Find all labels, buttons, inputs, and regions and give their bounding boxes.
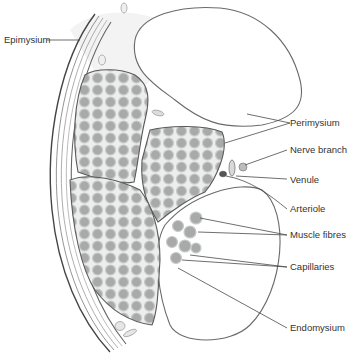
small-vessel-icon (152, 109, 165, 117)
small-vessel-icon (115, 322, 125, 331)
fascicle-upper-empty (134, 7, 301, 126)
small-vessel-icon (99, 55, 106, 65)
muscle-cross-section-diagram: Epimysium Perimysium Nerve branch Venule… (0, 0, 353, 358)
label-muscle-fibres: Muscle fibres (290, 229, 346, 240)
nerve-branch-icon (239, 163, 247, 171)
label-epimysium: Epimysium (4, 34, 51, 45)
venule-icon (229, 160, 235, 176)
label-endomysium: Endomysium (290, 322, 345, 333)
label-arteriole: Arteriole (290, 203, 325, 214)
fascicle-upper-left (75, 70, 148, 183)
label-perimysium: Perimysium (290, 117, 340, 128)
label-nerve-branch: Nerve branch (290, 144, 347, 155)
label-venule: Venule (290, 174, 319, 185)
small-vessel-icon (123, 328, 138, 338)
small-vessel-icon (121, 3, 127, 13)
arteriole-icon (220, 171, 227, 177)
label-capillaries: Capillaries (290, 261, 335, 272)
